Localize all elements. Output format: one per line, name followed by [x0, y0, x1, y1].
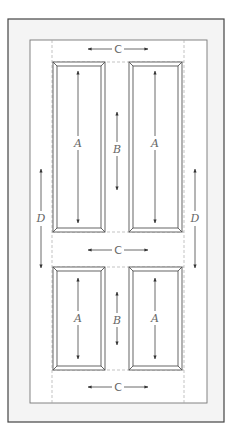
label-d-right: D	[190, 212, 200, 225]
label-b-top: B	[112, 143, 121, 156]
label-a-top-right: A	[150, 137, 159, 150]
label-c-middle: C	[114, 244, 122, 257]
label-c-bottom: C	[114, 381, 122, 394]
label-d-left: D	[36, 212, 46, 225]
door-diagram: C C C A A A A B B	[0, 0, 227, 428]
label-a-bottom-left: A	[73, 312, 82, 325]
label-c-top: C	[114, 43, 122, 56]
label-b-bottom: B	[112, 314, 121, 327]
label-a-bottom-right: A	[150, 312, 159, 325]
label-a-top-left: A	[73, 137, 82, 150]
